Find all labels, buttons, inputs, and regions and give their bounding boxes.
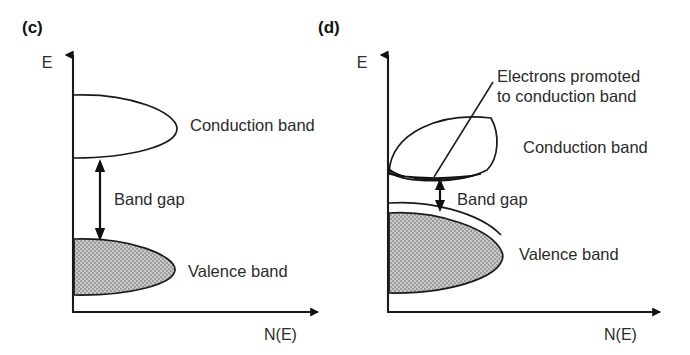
- panel-d-letter: (d): [318, 18, 340, 37]
- panel-d-promoted-label-line1: Electrons promoted: [497, 67, 640, 85]
- panel-d-valence-band-label: Valence band: [519, 245, 619, 263]
- panel-d-conduction-band-label: Conduction band: [523, 138, 648, 156]
- panel-d-y-axis-label: E: [357, 54, 368, 71]
- panel-c-conduction-band-curve: [74, 95, 177, 158]
- panel-c: (c) E N(E) Conduction band Band gap Vale…: [22, 18, 318, 343]
- panel-c-x-axis-label: N(E): [264, 326, 297, 343]
- panel-c-band-gap-arrow: [95, 159, 105, 241]
- panel-c-valence-band-shape: [74, 239, 175, 295]
- panel-c-conduction-band-label: Conduction band: [190, 116, 315, 134]
- panel-d-valence-band-shape: [389, 213, 503, 293]
- panel-d-promoted-label-line2: to conduction band: [497, 87, 636, 105]
- figure-canvas: (c) E N(E) Conduction band Band gap Vale…: [0, 0, 690, 355]
- band-structure-figure: (c) E N(E) Conduction band Band gap Vale…: [0, 0, 690, 355]
- panel-c-band-gap-label: Band gap: [114, 190, 185, 208]
- panel-d: (d) E N(E) Elect: [318, 18, 660, 343]
- panel-d-promoted-leader-line: [434, 82, 493, 177]
- panel-d-band-gap-label: Band gap: [457, 190, 528, 208]
- panel-c-letter: (c): [22, 18, 43, 37]
- panel-c-y-axis-label: E: [42, 54, 53, 71]
- panel-c-valence-band-label: Valence band: [188, 262, 288, 280]
- panel-d-x-axis-label: N(E): [604, 326, 637, 343]
- panel-d-conduction-band-curve: [389, 117, 497, 181]
